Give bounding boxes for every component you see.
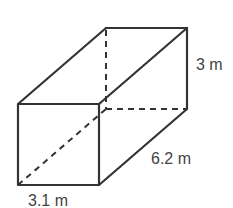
rectangular-prism-diagram: 3 m 6.2 m 3.1 m: [0, 0, 233, 208]
depth-label: 6.2 m: [151, 150, 191, 167]
bottom-right-edge: [99, 109, 187, 185]
width-label: 3.1 m: [28, 192, 68, 208]
top-right-edge: [99, 28, 187, 104]
front-face: [18, 104, 99, 185]
top-left-edge: [18, 28, 106, 104]
height-label: 3 m: [196, 56, 223, 73]
hidden-diagonal-edge: [18, 109, 106, 185]
